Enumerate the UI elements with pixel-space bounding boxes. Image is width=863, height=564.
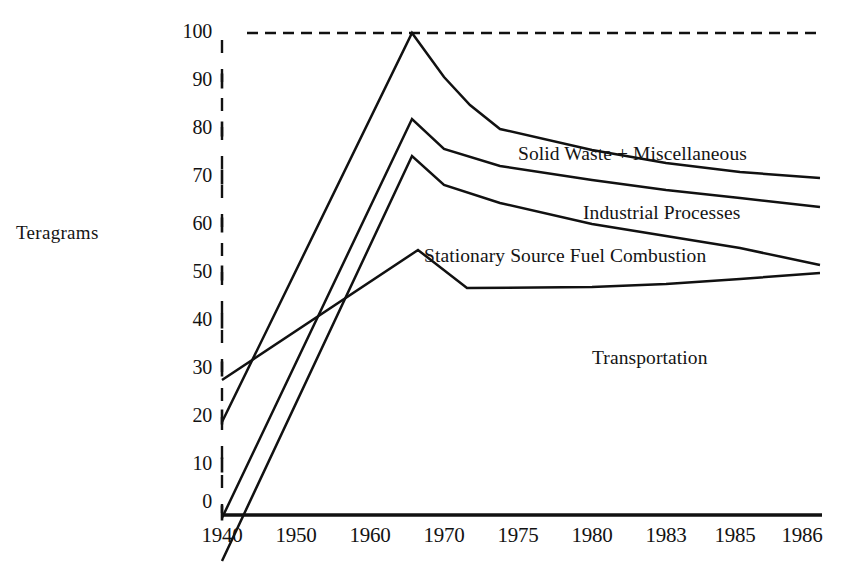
y-tick-label-60: 60 [150, 212, 212, 235]
y-tick-label-50: 50 [150, 260, 212, 283]
series-label-stationary: Stationary Source Fuel Combustion [424, 245, 706, 267]
y-tick-label-70: 70 [150, 164, 212, 187]
y-tick-label-10: 10 [150, 452, 212, 475]
y-tick-label-80: 80 [150, 116, 212, 139]
chart-plot-area [0, 0, 863, 564]
y-tick-label-100: 100 [150, 20, 212, 43]
series-label-solid-waste: Solid Waste + Miscellaneous [518, 143, 747, 165]
y-tick-label-40: 40 [150, 308, 212, 331]
chart-figure: Teragrams 100 90 80 70 60 50 40 30 20 10… [0, 0, 863, 564]
y-tick-label-20: 20 [150, 404, 212, 427]
y-tick-label-90: 90 [150, 68, 212, 91]
series-line-solid-waste [222, 33, 820, 422]
series-line-industrial [222, 119, 820, 518]
series-label-transportation: Transportation [592, 347, 708, 369]
y-axis-title: Teragrams [16, 222, 99, 244]
x-tick-label-1986: 1986 [748, 523, 856, 548]
y-tick-label-30: 30 [150, 356, 212, 379]
series-line-transportation [222, 250, 820, 380]
y-tick-label-0: 0 [150, 490, 212, 513]
series-label-industrial: Industrial Processes [583, 202, 740, 224]
